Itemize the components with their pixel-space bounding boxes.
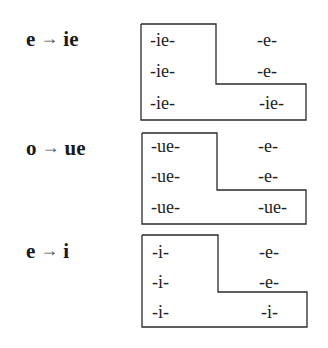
conjugation-cell: -e- bbox=[259, 243, 279, 261]
boot-outline-e-i bbox=[0, 0, 328, 348]
conjugation-cell: -i- bbox=[261, 303, 278, 321]
conjugation-cell: -i- bbox=[152, 243, 169, 261]
conjugation-cell: -i- bbox=[152, 273, 169, 291]
conjugation-cell: -i- bbox=[152, 303, 169, 321]
conjugation-cell: -e- bbox=[259, 273, 279, 291]
